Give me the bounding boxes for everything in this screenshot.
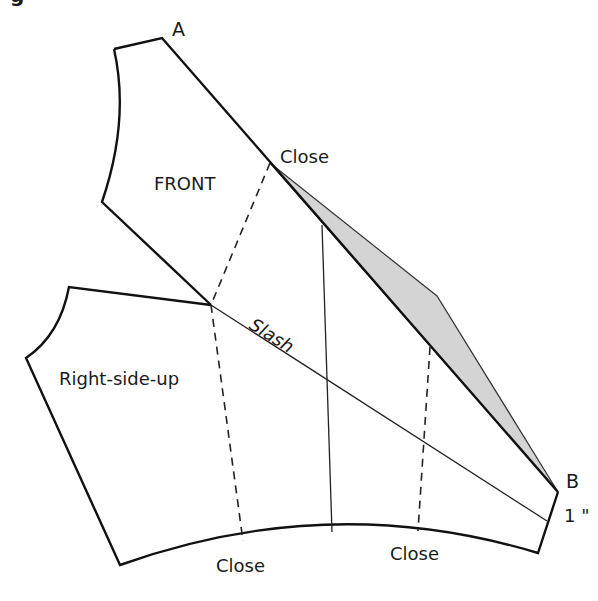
close-line-top	[211, 163, 270, 305]
label-one-inch: 1 "	[564, 505, 589, 526]
pattern-slash-spread-diagram: g A FRONT Close Slash Right-side-up Clos…	[0, 0, 598, 601]
label-right-side-up: Right-side-up	[59, 368, 179, 389]
front-piece-outline	[102, 38, 558, 492]
label-close-bottom-right: Close	[390, 543, 439, 564]
right-side-up-piece-outline	[26, 287, 558, 565]
label-point-b: B	[566, 470, 579, 492]
slash-line-vertical	[322, 225, 332, 532]
label-slash: Slash	[246, 314, 298, 357]
close-line-bottom-left	[211, 305, 243, 541]
caption-fragment: g	[10, 0, 24, 7]
label-point-a: A	[172, 18, 185, 40]
label-close-top: Close	[280, 146, 329, 167]
label-close-bottom-left: Close	[216, 555, 265, 576]
label-front: FRONT	[154, 173, 216, 194]
